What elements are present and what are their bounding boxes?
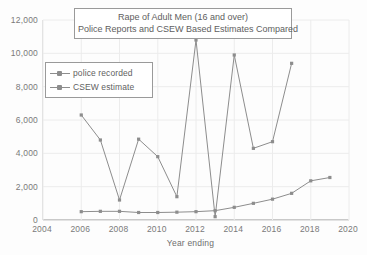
y-axis-tick-label: 6,000 [16, 115, 38, 125]
y-axis-tick-label: 10,000 [11, 48, 38, 58]
data-point-marker [137, 138, 140, 141]
x-axis-title-text: Year ending [153, 238, 214, 248]
chart-screenshot: 02,0004,0006,0008,00010,00012,000 200420… [0, 0, 367, 255]
data-point-marker [156, 155, 159, 158]
data-point-marker [271, 140, 274, 143]
data-point-marker [233, 206, 236, 209]
data-point-marker [175, 195, 178, 198]
data-point-marker [252, 202, 255, 205]
data-point-marker [99, 210, 102, 213]
x-axis-tick-label: 2016 [262, 224, 282, 234]
x-axis-tick-label: 2004 [32, 224, 52, 234]
data-point-marker [80, 113, 83, 116]
chart-title-box: Rape of Adult Men (16 and over) Police R… [74, 8, 292, 39]
x-axis-title: Year ending [0, 238, 367, 248]
y-axis-tick-label: 4,000 [16, 148, 38, 158]
x-axis-tick-label: 2020 [338, 224, 358, 234]
data-point-marker [309, 179, 312, 182]
data-point-marker [99, 138, 102, 141]
data-point-marker [156, 211, 159, 214]
x-axis-tick-label: 2018 [300, 224, 320, 234]
x-axis-tick-label: 2012 [185, 224, 205, 234]
data-point-marker [80, 210, 83, 213]
data-point-marker [271, 198, 274, 201]
x-axis-tick-label: 2010 [147, 224, 167, 234]
y-axis-tick-label: 12,000 [11, 15, 38, 25]
legend-line-marker-icon [50, 82, 70, 92]
data-series-layer [43, 20, 349, 220]
data-point-marker [194, 210, 197, 213]
x-axis-tick-label: 2006 [70, 224, 90, 234]
data-point-marker [118, 198, 121, 201]
data-point-marker [290, 62, 293, 65]
data-point-marker [137, 211, 140, 214]
data-point-marker [233, 53, 236, 56]
y-axis-tick-label: 2,000 [16, 182, 38, 192]
y-axis-tick-label: 8,000 [16, 82, 38, 92]
clipped-header-text [0, 0, 367, 4]
x-axis-tick-label: 2008 [109, 224, 129, 234]
legend-label: CSEW estimate [73, 82, 134, 92]
x-axis-tick-label: 2014 [223, 224, 243, 234]
data-point-marker [175, 211, 178, 214]
data-point-marker [328, 176, 331, 179]
legend-line-marker-icon [50, 68, 70, 78]
data-point-marker [214, 215, 217, 218]
data-point-marker [290, 192, 293, 195]
legend-item-police-recorded: police recorded [50, 66, 148, 80]
legend-item-csew-estimate: CSEW estimate [50, 80, 148, 94]
plot-area [42, 20, 348, 220]
chart-legend: police recorded CSEW estimate [45, 62, 153, 98]
chart-title-line-2: Police Reports and CSEW Based Estimates … [78, 23, 288, 35]
chart-title-line-1: Rape of Adult Men (16 and over) [78, 11, 288, 23]
data-point-marker [252, 147, 255, 150]
y-axis-labels: 02,0004,0006,0008,00010,00012,000 [0, 20, 38, 220]
legend-label: police recorded [73, 68, 133, 78]
data-point-marker [118, 210, 121, 213]
series-line-police-recorded [81, 178, 330, 213]
